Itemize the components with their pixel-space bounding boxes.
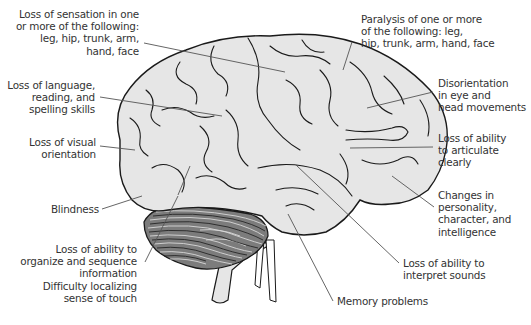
- label-blindness: Blindness: [51, 203, 99, 215]
- label-line: intelligence: [438, 226, 511, 238]
- label-line: Loss of sensation in one: [16, 8, 139, 20]
- label-line: Blindness: [51, 203, 99, 215]
- label-paralysis: Paralysis of one or more of the followin…: [361, 13, 494, 50]
- label-disorientation: Disorientation in eye and head movements: [438, 77, 526, 114]
- label-line: interpret sounds: [403, 269, 485, 281]
- label-visual-orientation: Loss of visual orientation: [29, 136, 96, 160]
- label-line: information: [20, 267, 137, 279]
- label-organize-sequence: Loss of ability to organize and sequence…: [20, 243, 137, 304]
- label-articulate: Loss of ability to articulate clearly: [438, 132, 506, 169]
- label-memory-problems: Memory problems: [337, 295, 428, 307]
- label-language-loss: Loss of language, reading, and spelling …: [7, 79, 95, 116]
- label-interpret-sounds: Loss of ability to interpret sounds: [403, 257, 485, 281]
- label-line: orientation: [29, 148, 96, 160]
- label-line: clearly: [438, 156, 506, 168]
- label-line: or more of the following:: [16, 20, 139, 32]
- label-line: spelling skills: [7, 103, 95, 115]
- label-line: of the following: leg,: [361, 25, 494, 37]
- label-line: Difficulty localizing: [20, 280, 137, 292]
- label-line: Loss of ability to: [403, 257, 485, 269]
- label-line: Loss of visual: [29, 136, 96, 148]
- label-line: organize and sequence: [20, 255, 137, 267]
- label-line: reading, and: [7, 91, 95, 103]
- label-line: Paralysis of one or more: [361, 13, 494, 25]
- label-line: Memory problems: [337, 295, 428, 307]
- cerebrum: [118, 34, 448, 235]
- brain-diagram: Loss of sensation in one or more of the …: [0, 0, 531, 325]
- label-line: in eye and: [438, 89, 526, 101]
- label-line: Changes in: [438, 189, 511, 201]
- label-line: personality,: [438, 201, 511, 213]
- label-line: to articulate: [438, 144, 506, 156]
- label-sensation-loss: Loss of sensation in one or more of the …: [16, 8, 139, 57]
- label-line: Loss of ability: [438, 132, 506, 144]
- label-line: sense of touch: [20, 292, 137, 304]
- label-line: hip, trunk, arm, hand, face: [361, 37, 494, 49]
- label-line: Loss of language,: [7, 79, 95, 91]
- cerebellum: [144, 206, 268, 269]
- label-line: character, and: [438, 213, 511, 225]
- label-line: head movements: [438, 101, 526, 113]
- label-line: hand, face: [16, 45, 139, 57]
- label-personality: Changes in personality, character, and i…: [438, 189, 511, 238]
- label-line: leg, hip, trunk, arm,: [16, 32, 139, 44]
- label-line: Loss of ability to: [20, 243, 137, 255]
- label-line: Disorientation: [438, 77, 526, 89]
